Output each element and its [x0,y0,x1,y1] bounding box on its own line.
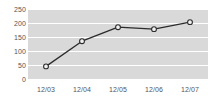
x-tick-label-4: 12/07 [172,86,208,94]
data-point-12/05 [116,25,121,30]
y-tick-label-250: 250 [0,6,26,13]
data-point-12/03 [44,64,49,69]
y-tick-label-100: 100 [0,48,26,55]
x-tick-label-1: 12/04 [64,86,100,94]
y-tick-label-150: 150 [0,34,26,41]
y-axis: 250 200 150 100 50 0 [0,0,26,101]
data-point-12/04 [80,39,85,44]
plot-area [28,9,208,80]
x-tick-label-3: 12/06 [136,86,172,94]
data-point-12/07 [188,20,193,25]
x-tick-label-2: 12/05 [100,86,136,94]
data-point-12/06 [152,27,157,32]
x-axis: 12/0312/0412/0512/0612/07 [28,86,208,98]
series-plot [28,9,208,80]
line-chart: 250 200 150 100 50 0 12/0312/0412/0512/0… [0,0,212,101]
y-tick-label-0: 0 [0,76,26,83]
series-markers [44,20,193,69]
y-tick-label-50: 50 [0,62,26,69]
y-tick-label-200: 200 [0,20,26,27]
x-tick-label-0: 12/03 [28,86,64,94]
